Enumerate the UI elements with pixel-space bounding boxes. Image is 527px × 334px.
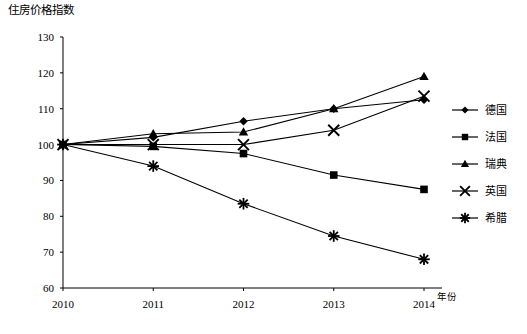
x-tick-label: 2011: [142, 298, 164, 310]
chart-canvas: 住房价格指数 60708090100110120130 201020112012…: [0, 0, 527, 334]
data-point-marker: [328, 230, 340, 242]
data-point-marker: [57, 139, 69, 151]
data-point-marker: [330, 171, 338, 179]
data-point-marker: [418, 254, 430, 266]
data-point-marker: [420, 186, 428, 194]
x-tick-label: 2014: [413, 298, 436, 310]
chart-background: [0, 0, 527, 334]
x-tick-label: 2012: [233, 298, 255, 310]
housing-price-index-chart: 住房价格指数 60708090100110120130 201020112012…: [0, 0, 527, 334]
x-tick-label: 2013: [323, 298, 346, 310]
y-tick-label: 120: [38, 67, 55, 79]
y-tick-label: 110: [38, 103, 55, 115]
y-tick-label: 90: [43, 174, 55, 186]
chart-title: 住房价格指数: [8, 3, 75, 16]
y-tick-label: 60: [43, 282, 55, 294]
legend-label: 希腊: [485, 211, 507, 224]
legend-label: 法国: [485, 130, 507, 143]
square-marker: [330, 171, 338, 179]
legend-label: 德国: [485, 103, 507, 116]
data-point-marker: [460, 213, 470, 223]
square-marker: [420, 186, 428, 194]
data-point-marker: [240, 150, 248, 158]
x-tick-label: 2010: [52, 298, 75, 310]
data-point-marker: [462, 134, 468, 140]
data-point-marker: [147, 160, 159, 172]
square-marker: [240, 150, 248, 158]
y-tick-label: 80: [43, 210, 55, 222]
legend-label: 瑞典: [485, 157, 507, 170]
y-tick-label: 70: [43, 246, 55, 258]
y-tick-label: 100: [38, 139, 55, 151]
y-tick-label: 130: [38, 31, 55, 43]
legend-label: 英国: [485, 184, 507, 197]
square-marker: [462, 134, 468, 140]
x-axis-label: 年份: [437, 291, 457, 302]
data-point-marker: [238, 198, 250, 210]
